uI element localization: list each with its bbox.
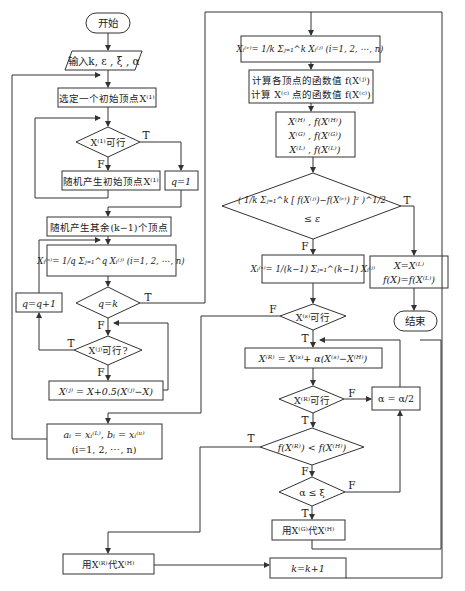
branch-t-x1: T xyxy=(142,129,149,141)
q-eq-k-label: q=k xyxy=(98,297,118,310)
hgl-label-2: X⁽ᴳ⁾ , f(X⁽ᴳ⁾) xyxy=(289,129,341,142)
branch-f-xr: F xyxy=(348,387,355,399)
random-rest-label: 随机产生其余(k−1)个顶点 xyxy=(50,221,167,234)
xs-feasible-label: X⁽ˢ⁾可行 xyxy=(296,311,331,324)
result-label-2: f(X)=f(X⁽ᴸ⁾) xyxy=(383,273,435,286)
replace-h-with-r-label: 用X⁽ᴿ⁾代X⁽ᴴ⁾ xyxy=(82,558,135,571)
flowchart-canvas xyxy=(0,0,465,591)
branch-t-xs: T xyxy=(301,332,308,344)
converge-label-2: ≤ ε xyxy=(304,212,320,225)
branch-f-qk: F xyxy=(97,319,104,331)
centroid-q-label: Xᵢ⁽ˢ⁾= 1/q Σⱼ₌₁^q Xᵢ⁽ʲ⁾ (i=1, 2, ⋯, n) xyxy=(37,255,184,268)
end-label: 结束 xyxy=(405,315,425,328)
branch-f-alpha: F xyxy=(348,479,355,491)
reflect-label: X⁽ᴿ⁾ = X⁽ˢ⁾+ α(X⁽ˢ⁾−X⁽ᴴ⁾) xyxy=(259,352,368,365)
input-label: 输入k, ε , ξ , α xyxy=(68,55,139,68)
xj-update-label: X⁽ʲ⁾ = X+0.5(X⁽ʲ⁾−X) xyxy=(59,385,153,398)
centroid-s-label: Xᵢ⁽ˢ⁾= 1/(k−1) Σⱼ₌₁^(k−1) Xᵢ⁽ʲ⁾ xyxy=(251,263,375,276)
branch-f-xs: F xyxy=(269,303,276,315)
result-label-1: X=X⁽ᴸ⁾ xyxy=(394,259,424,272)
hgl-label-3: X⁽ᴸ⁾ , f(X⁽ᴸ⁾) xyxy=(290,143,341,156)
branch-t-xj: T xyxy=(67,337,74,349)
bounds-label-1: aᵢ = xᵢ⁽ᴸ⁾, bᵢ = xᵢ⁽ᵘ⁾ xyxy=(63,428,144,441)
branch-t-qk: T xyxy=(144,291,151,303)
x1-feasible-label: X⁽¹⁾可行 xyxy=(90,136,125,149)
q-init-label: q=1 xyxy=(171,175,191,188)
compute-label-2: 计算 X⁽ᶜ⁾ 点的函数值 f(X⁽ᶜ⁾) xyxy=(251,88,370,101)
compute-label-1: 计算各顶点的函数值 f(X⁽ʲ⁾) xyxy=(252,74,370,87)
start-label: 开始 xyxy=(98,17,118,30)
branch-t-xr: T xyxy=(301,414,308,426)
branch-f-fr: F xyxy=(301,465,308,477)
branch-t-alpha: T xyxy=(301,507,308,519)
hgl-label-1: X⁽ᴴ⁾ , f(X⁽ᴴ⁾) xyxy=(288,115,341,128)
xr-feasible-label: X⁽ᴿ⁾可行 xyxy=(294,394,330,407)
branch-f-xj: F xyxy=(97,366,104,378)
bounds-label-2: (i=1, 2, ⋯, n) xyxy=(72,443,137,456)
converge-label-1: ( 1/k Σⱼ₌₁^k [ f(X⁽ʲ⁾)−f(X⁽ᶜ⁾) ]² )^1/2 xyxy=(238,194,386,207)
select-initial-label: 选定一个初始顶点X⁽¹⁾ xyxy=(59,92,154,105)
alpha-le-xi-label: α ≤ ξ xyxy=(299,486,325,499)
k-inc-label: k=k+1 xyxy=(291,562,324,575)
q-inc-label: q=q+1 xyxy=(22,297,56,310)
fr-lt-fh-label: f(X⁽ᴿ⁾) < f(X⁽ᴴ⁾) xyxy=(278,441,346,454)
branch-f-converge: F xyxy=(301,240,308,252)
halve-alpha-label: α = α/2 xyxy=(378,392,414,405)
replace-h-with-g-label: 用X⁽ᴳ⁾代X⁽ᴴ⁾ xyxy=(282,524,335,537)
branch-t-converge: T xyxy=(403,194,410,206)
xj-feasible-label: X⁽ʲ⁾可行? xyxy=(88,344,127,357)
centroid-k-label: Xᵢ⁽ᶜ⁾= 1/k Σⱼ₌₁^k Xᵢ⁽ʲ⁾ (i=1, 2, ⋯, n) xyxy=(237,43,384,56)
branch-t-fr: T xyxy=(247,432,254,444)
branch-f-x1: F xyxy=(97,158,104,170)
random-initial-label: 随机产生初始顶点X⁽¹⁾ xyxy=(63,175,158,188)
